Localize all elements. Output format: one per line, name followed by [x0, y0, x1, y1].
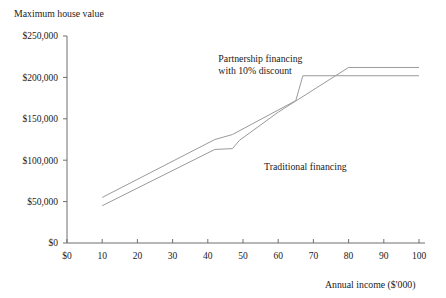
x-tick-label: 10	[97, 251, 107, 261]
series-lines	[102, 67, 419, 205]
partnership-label: with 10% discount	[218, 65, 292, 76]
x-tick-label: 20	[133, 251, 143, 261]
y-axis-ticks: $0$50,000$100,000$150,000$200,000$250,00…	[22, 31, 67, 248]
y-tick-label: $100,000	[22, 156, 58, 166]
x-axis-title: Annual income ($'000)	[325, 279, 415, 291]
series-line-0	[102, 76, 419, 198]
x-tick-label: 50	[238, 251, 248, 261]
y-tick-label: $250,000	[22, 31, 58, 41]
x-tick-label: 40	[203, 251, 213, 261]
x-tick-label: 30	[168, 251, 178, 261]
y-tick-label: $200,000	[22, 73, 58, 83]
x-tick-label: 60	[273, 251, 283, 261]
x-tick-label: $0	[62, 251, 72, 261]
y-axis-title: Maximum house value	[14, 8, 104, 19]
y-tick-label: $150,000	[22, 114, 58, 124]
chart-container: Maximum house value Annual income ($'000…	[0, 0, 446, 298]
x-tick-label: 80	[344, 251, 354, 261]
series-line-1	[102, 67, 419, 205]
partnership-label: Partnership financing	[218, 53, 302, 64]
y-tick-label: $50,000	[27, 197, 58, 207]
x-tick-label: 100	[412, 251, 427, 261]
traditional-label: Traditional financing	[264, 161, 347, 172]
x-axis-ticks: $0102030405060708090100	[62, 239, 426, 261]
y-tick-label: $0	[49, 238, 59, 248]
series-annotations: Partnership financingwith 10% discountTr…	[218, 53, 346, 172]
x-tick-label: 70	[309, 251, 319, 261]
line-chart: Maximum house value Annual income ($'000…	[0, 0, 446, 298]
x-tick-label: 90	[379, 251, 389, 261]
